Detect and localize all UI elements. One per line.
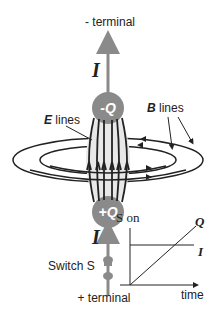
- switch-label: Switch S: [48, 259, 95, 273]
- q-i-graph: S on Q I time: [116, 210, 205, 302]
- graph-series-q: [130, 226, 196, 285]
- positive-terminal-label: + terminal: [77, 291, 130, 305]
- graph-xlabel: time: [181, 288, 204, 302]
- b-field-arrows: [137, 136, 152, 180]
- current-label-top: I: [91, 59, 101, 81]
- graph-label-i: I: [197, 244, 204, 259]
- graph-label-q: Q: [195, 214, 205, 229]
- graph-title: S on: [116, 210, 140, 225]
- b-lines-label: B lines: [147, 101, 184, 115]
- b-lines-pointer-outer: [178, 117, 192, 142]
- current-label-bottom: I: [91, 226, 101, 248]
- e-lines-pointer: [66, 126, 92, 140]
- e-lines-label: E lines: [44, 113, 80, 127]
- negative-charge-label: -Q: [100, 100, 116, 116]
- positive-charge-label: +Q: [98, 204, 117, 220]
- negative-terminal-label: - terminal: [85, 15, 135, 29]
- capacitor-field-diagram: - terminal I -Q +Q E lines: [0, 0, 220, 319]
